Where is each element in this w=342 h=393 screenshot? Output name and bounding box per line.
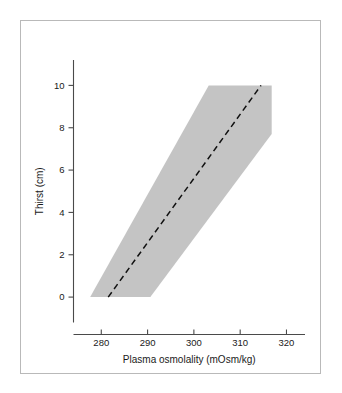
x-tick-label-310: 310: [232, 337, 248, 348]
x-tick-label-290: 290: [140, 337, 156, 348]
confidence-band: [90, 85, 271, 297]
y-axis-ticks: 0246810: [54, 80, 74, 303]
x-axis-ticks: 280290300310320: [93, 330, 294, 348]
x-tick-label-280: 280: [93, 337, 109, 348]
y-axis-title: Thirst (cm): [34, 167, 45, 215]
x-tick-label-320: 320: [279, 337, 295, 348]
y-tick-label-6: 6: [59, 164, 64, 175]
y-tick-label-10: 10: [54, 80, 65, 91]
y-tick-label-8: 8: [59, 122, 64, 133]
x-tick-label-300: 300: [186, 337, 202, 348]
y-tick-label-2: 2: [59, 249, 64, 260]
x-axis-title: Plasma osmolality (mOsm/kg): [123, 354, 256, 365]
y-tick-label-0: 0: [59, 291, 64, 302]
figure-container: 0246810 Thirst (cm) 280290300310320 Plas…: [0, 0, 342, 393]
chart-plot: 0246810 Thirst (cm) 280290300310320 Plas…: [0, 0, 342, 393]
y-tick-label-4: 4: [59, 207, 64, 218]
